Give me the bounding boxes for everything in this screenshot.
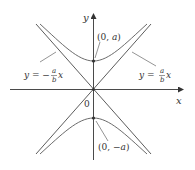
x-axis-label: x <box>176 95 182 106</box>
pointer-line-pos-asymptote <box>132 52 156 66</box>
svg-text:b: b <box>52 76 57 84</box>
origin-point <box>92 88 95 91</box>
asymptote-label-positive: y = a b x <box>138 67 171 84</box>
svg-text:x: x <box>166 70 171 80</box>
svg-text:y = −: y = − <box>23 70 50 80</box>
vertex-label-upper: (0, a) <box>97 32 121 42</box>
hyperbola-diagram: y x 0 (0, a) (0, −a) y = − a b x y = a b… <box>0 0 195 170</box>
svg-text:a: a <box>52 67 56 75</box>
svg-text:a: a <box>160 67 164 75</box>
origin-label: 0 <box>84 99 90 109</box>
vertex-point-lower <box>92 116 95 119</box>
pointer-line-upper-vertex <box>95 42 100 58</box>
svg-text:y =: y = <box>138 70 155 80</box>
asymptote-label-negative: y = − a b x <box>23 67 63 84</box>
vertex-point-upper <box>92 59 95 62</box>
vertex-label-lower: (0, −a) <box>98 142 129 152</box>
pointer-line-lower-vertex <box>96 121 108 141</box>
svg-text:x: x <box>58 70 63 80</box>
svg-text:b: b <box>160 76 165 84</box>
pointer-line-neg-asymptote <box>40 52 56 62</box>
y-axis-label: y <box>82 12 89 23</box>
